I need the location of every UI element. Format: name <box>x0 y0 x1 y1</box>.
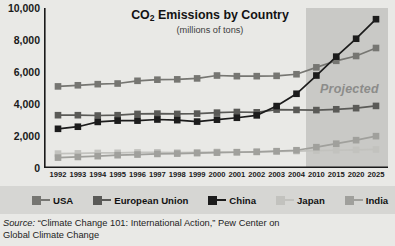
legend-line-icon <box>41 199 50 201</box>
series-marker <box>114 152 121 159</box>
x-tick-label: 2010 <box>308 170 325 179</box>
series-marker <box>333 106 340 113</box>
projected-annotation-label: Projected <box>320 82 379 96</box>
series-marker <box>333 140 340 147</box>
series-marker <box>353 147 360 154</box>
series-marker <box>174 150 181 157</box>
x-tick-label: 1994 <box>89 170 106 179</box>
legend-label: India <box>366 195 388 206</box>
y-tick-label: 10,000 <box>8 3 40 13</box>
legend-line-icon <box>285 199 294 201</box>
legend-item-japan[interactable]: Japan <box>276 195 345 206</box>
series-marker <box>313 64 320 71</box>
x-tick-label: 2015 <box>328 170 345 179</box>
series-marker <box>293 147 300 154</box>
series-marker <box>313 107 320 114</box>
legend-swatch-icon <box>345 196 354 205</box>
x-tick-label: 1995 <box>109 170 126 179</box>
series-marker <box>134 117 141 124</box>
series-marker <box>373 103 380 110</box>
x-tick-label: 1998 <box>169 170 186 179</box>
legend-label: European Union <box>114 195 188 206</box>
series-marker <box>174 117 181 124</box>
x-tick-label: 1999 <box>189 170 206 179</box>
series-marker <box>75 112 82 119</box>
series-marker <box>75 82 82 89</box>
x-tick-label: 2000 <box>209 170 226 179</box>
y-tick-label: 4,000 <box>14 99 40 109</box>
series-marker <box>174 111 181 118</box>
source-prefix: Source: <box>3 218 35 228</box>
series-marker <box>75 123 82 130</box>
source-line-1: Source: “Climate Change 101: Internation… <box>3 218 393 230</box>
series-marker <box>194 110 201 117</box>
figure-co2-emissions-chart: 02,0004,0006,0008,00010,000 Projected 19… <box>0 0 395 246</box>
series-marker <box>154 76 161 83</box>
x-tick-label: 1997 <box>149 170 166 179</box>
y-tick-label: 2,000 <box>14 131 40 141</box>
series-marker <box>55 126 62 133</box>
series-marker <box>114 80 121 87</box>
x-tick-label: 1996 <box>129 170 146 179</box>
series-marker <box>293 107 300 114</box>
legend-item-china[interactable]: China <box>208 195 276 206</box>
series-marker <box>273 148 280 155</box>
series-marker <box>373 146 380 153</box>
legend-swatch-icon <box>208 196 217 205</box>
y-tick-label: 8,000 <box>14 35 40 45</box>
legend-item-india[interactable]: India <box>345 195 395 206</box>
series-marker <box>273 103 280 110</box>
series-marker <box>55 83 62 90</box>
series-india <box>55 133 380 161</box>
x-tick-label: 2004 <box>288 170 305 179</box>
y-tick-label: 6,000 <box>14 67 40 77</box>
x-tick-label: 1993 <box>69 170 86 179</box>
series-marker <box>234 109 241 116</box>
series-marker <box>234 73 241 80</box>
series-marker <box>353 53 360 60</box>
legend-label: USA <box>53 195 73 206</box>
chart-legend: USAEuropean UnionChinaJapanIndia <box>0 186 395 214</box>
series-marker <box>313 72 320 79</box>
y-tick-label: 0 <box>34 163 40 173</box>
source-note: Source: “Climate Change 101: Internation… <box>3 218 393 241</box>
series-marker <box>214 116 221 123</box>
chart-panel: 02,0004,0006,0008,00010,000 Projected 19… <box>0 0 395 186</box>
series-marker <box>373 45 380 52</box>
y-axis-labels: 02,0004,0006,0008,00010,000 <box>0 8 40 168</box>
series-marker <box>293 90 300 97</box>
x-tick-label: 2003 <box>268 170 285 179</box>
legend-label: Japan <box>297 195 325 206</box>
series-marker <box>214 109 221 116</box>
series-marker <box>134 78 141 85</box>
series-marker <box>194 118 201 125</box>
series-marker <box>313 144 320 151</box>
source-line-2: Global Climate Change <box>3 230 393 242</box>
legend-label: China <box>229 195 256 206</box>
series-marker <box>114 117 121 124</box>
series-marker <box>55 154 62 161</box>
series-marker <box>333 53 340 60</box>
series-marker <box>253 112 260 119</box>
series-marker <box>214 149 221 156</box>
series-marker <box>94 112 101 119</box>
series-marker <box>154 110 161 117</box>
series-line <box>58 48 376 86</box>
plot-area: Projected <box>44 8 388 168</box>
series-marker <box>333 147 340 154</box>
series-marker <box>273 73 280 80</box>
legend-line-icon <box>217 199 226 201</box>
source-text-1: “Climate Change 101: International Actio… <box>38 218 280 228</box>
series-marker <box>94 153 101 160</box>
x-tick-label: 2002 <box>248 170 265 179</box>
legend-line-icon <box>102 199 111 201</box>
legend-items: USAEuropean UnionChinaJapanIndia <box>32 186 395 214</box>
series-marker <box>234 114 241 121</box>
legend-item-usa[interactable]: USA <box>32 195 93 206</box>
x-tick-label: 2001 <box>228 170 245 179</box>
series-marker <box>373 133 380 140</box>
series-marker <box>253 149 260 156</box>
series-marker <box>353 35 360 42</box>
legend-item-european-union[interactable]: European Union <box>93 195 208 206</box>
series-marker <box>253 73 260 80</box>
